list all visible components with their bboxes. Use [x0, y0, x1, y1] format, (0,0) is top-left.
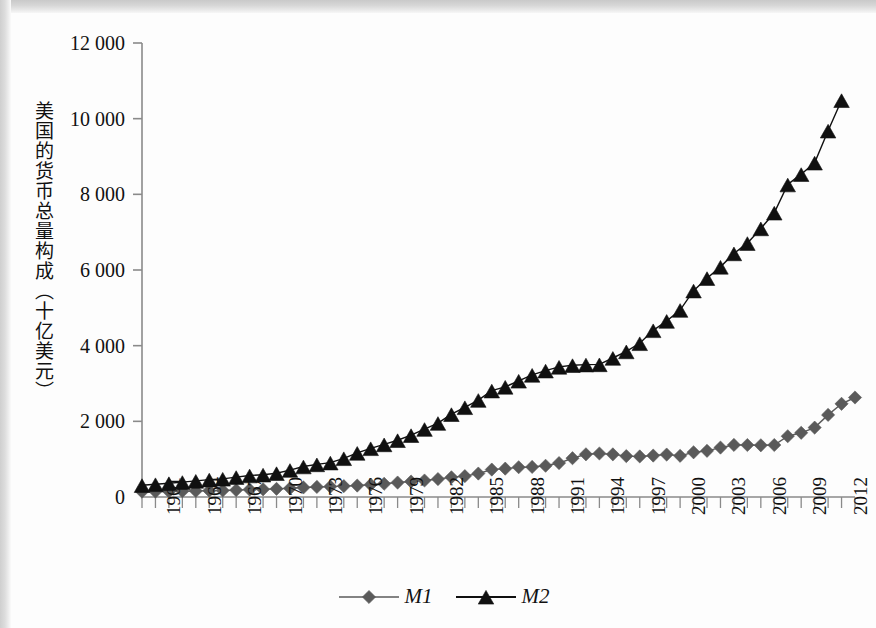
x-tick-label: 1997 [648, 477, 670, 515]
data-point-m2 [834, 94, 850, 108]
y-tick-label: 2 000 [35, 410, 125, 433]
data-point-m1 [539, 459, 552, 472]
x-tick-label: 1970 [285, 477, 307, 515]
plot-area: 02 0004 0006 0008 00010 00012 0001961196… [11, 13, 876, 628]
data-point-m1 [606, 448, 619, 461]
triangle-marker-icon [455, 586, 517, 608]
x-tick-label: 1961 [163, 477, 185, 515]
data-point-m2 [551, 360, 567, 374]
data-point-m1 [848, 391, 861, 404]
data-point-m1 [351, 479, 364, 492]
data-point-m1 [633, 450, 646, 463]
data-point-m2 [282, 464, 298, 478]
scan-edge-left [0, 0, 11, 628]
data-point-m1 [700, 444, 713, 457]
data-point-m1 [230, 483, 243, 496]
data-point-m2 [403, 429, 419, 443]
data-point-m1 [687, 446, 700, 459]
data-point-m2 [336, 452, 352, 466]
y-tick-label: 10 000 [35, 107, 125, 130]
data-point-m2 [390, 434, 406, 448]
data-point-m1 [660, 448, 673, 461]
data-point-m1 [620, 450, 633, 463]
data-point-m1 [391, 476, 404, 489]
data-point-m1 [795, 426, 808, 439]
legend-item-m2[interactable]: M2 [455, 584, 550, 609]
data-point-m1 [485, 463, 498, 476]
data-point-m2 [538, 364, 554, 378]
data-point-m2 [820, 124, 836, 138]
data-point-m2 [740, 237, 756, 251]
data-point-m2 [417, 423, 433, 437]
data-point-m1 [754, 439, 767, 452]
x-tick-label: 1976 [365, 477, 387, 515]
x-tick-label: 1973 [325, 477, 347, 515]
data-point-m2 [807, 156, 823, 170]
data-point-m2 [376, 438, 392, 452]
data-point-m1 [768, 438, 781, 451]
x-tick-label: 2012 [850, 477, 872, 515]
scan-edge-top [0, 0, 876, 13]
data-point-m2 [134, 479, 150, 493]
data-point-m2 [497, 380, 513, 394]
data-point-m1 [310, 480, 323, 493]
legend-label: M1 [405, 584, 433, 609]
x-tick-label: 1979 [406, 477, 428, 515]
data-point-m2 [484, 384, 500, 398]
data-point-m2 [767, 206, 783, 220]
data-point-m2 [511, 374, 527, 388]
x-tick-label: 1994 [607, 477, 629, 515]
x-tick-label: 1967 [244, 477, 266, 515]
data-point-m2 [524, 369, 540, 383]
data-point-m1 [714, 441, 727, 454]
chart-figure: 美国的货币总量构成（十亿美元） 02 0004 0006 0008 00010 … [11, 13, 876, 628]
y-tick-label: 6 000 [35, 259, 125, 282]
x-tick-label: 1991 [567, 477, 589, 515]
data-point-m1 [552, 456, 565, 469]
data-point-m1 [566, 452, 579, 465]
data-point-m1 [526, 460, 539, 473]
x-tick-label: 2006 [769, 477, 791, 515]
data-point-m1 [579, 448, 592, 461]
data-point-m2 [713, 260, 729, 274]
y-tick-label: 0 [35, 486, 125, 509]
data-point-m1 [270, 482, 283, 495]
data-point-m2 [605, 352, 621, 366]
data-point-m2 [363, 442, 379, 456]
x-tick-label: 2003 [728, 477, 750, 515]
data-point-m1 [431, 472, 444, 485]
data-point-m1 [472, 467, 485, 480]
page-canvas: 美国的货币总量构成（十亿美元） 02 0004 0006 0008 00010 … [11, 13, 876, 628]
data-point-m2 [619, 345, 635, 359]
y-tick-label: 12 000 [35, 32, 125, 55]
x-tick-label: 1988 [527, 477, 549, 515]
chart-legend: M1M2 [11, 584, 876, 609]
legend-item-m1[interactable]: M1 [338, 584, 433, 609]
legend-marker [362, 590, 375, 603]
diamond-marker-icon [338, 586, 400, 608]
legend-label: M2 [522, 584, 550, 609]
data-point-m1 [674, 449, 687, 462]
data-point-m1 [727, 438, 740, 451]
data-point-m1 [593, 447, 606, 460]
data-point-m2 [672, 304, 688, 318]
x-tick-label: 1964 [204, 477, 226, 515]
x-tick-label: 2009 [809, 477, 831, 515]
y-tick-label: 4 000 [35, 334, 125, 357]
data-point-m1 [647, 449, 660, 462]
data-point-m1 [741, 438, 754, 451]
data-point-m1 [781, 430, 794, 443]
x-tick-label: 1985 [486, 477, 508, 515]
y-tick-label: 8 000 [35, 183, 125, 206]
x-tick-label: 1982 [446, 477, 468, 515]
x-tick-label: 2000 [688, 477, 710, 515]
data-point-m1 [499, 462, 512, 475]
plot-svg [11, 13, 876, 628]
data-point-m2 [753, 222, 769, 236]
data-point-m1 [512, 461, 525, 474]
data-point-m2 [349, 447, 365, 461]
series-line-m2 [142, 100, 842, 485]
data-point-m2 [457, 401, 473, 415]
